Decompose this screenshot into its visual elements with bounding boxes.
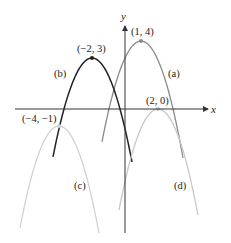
parabola-diagram: x y (a)(1, 4)(b)(−2, 3)(c)(−4, −1)(d)(2,… [0, 0, 231, 243]
parabola-c [20, 126, 99, 233]
vertex-dot-b [90, 56, 94, 60]
vertex-label-d: (2, 0) [146, 95, 169, 107]
curve-label-d: (d) [174, 180, 187, 192]
vertex-label-c: (−4, −1) [22, 113, 57, 125]
curve-label-b: (b) [54, 68, 67, 80]
parabola-d [119, 109, 198, 215]
vertex-dot-c [57, 124, 61, 128]
curve-label-c: (c) [74, 180, 86, 192]
vertex-label-b: (−2, 3) [77, 43, 106, 55]
vertex-dot-a [139, 39, 143, 43]
parabola-a [102, 41, 183, 158]
vertex-label-a: (1, 4) [131, 26, 154, 38]
curve-label-a: (a) [168, 68, 180, 80]
y-axis-label: y [120, 10, 126, 22]
x-axis-label: x [210, 103, 216, 115]
